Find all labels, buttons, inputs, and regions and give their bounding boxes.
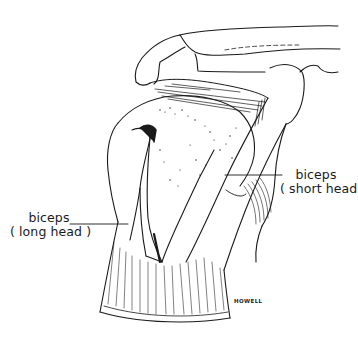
artist-signature: HOWELL — [234, 298, 263, 304]
muscle-belly — [100, 222, 230, 322]
label-biceps-long-head: biceps ( long head ) — [10, 211, 88, 239]
ligament-band — [150, 79, 268, 126]
label-short-head-line2: ( short head ) — [280, 182, 352, 196]
acromion-clavicle — [135, 26, 340, 124]
biceps-short-head — [186, 98, 286, 270]
label-long-head-line2: ( long head ) — [10, 225, 88, 239]
label-biceps-short-head: biceps ( short head ) — [280, 168, 352, 196]
biceps-long-head — [140, 138, 214, 262]
label-short-head-line1: biceps — [280, 168, 352, 182]
muscle-striations — [108, 242, 224, 314]
label-long-head-line1: biceps — [10, 211, 88, 225]
